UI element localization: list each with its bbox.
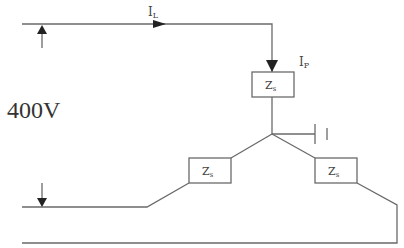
top-line-wire [22, 24, 272, 72]
phase-current-arrow-icon [266, 60, 278, 72]
star-connection-diagram: Zs Zs Zs IL IP 400V [0, 0, 404, 248]
voltage-arrow-down-icon [37, 198, 47, 207]
middle-line-wire [22, 183, 189, 207]
bottom-line-wire [22, 183, 397, 243]
left-branch-wire [231, 134, 272, 158]
right-branch-wire [272, 134, 315, 158]
voltage-arrow-up-icon [37, 25, 47, 34]
line-current-label: IL [148, 5, 159, 20]
line-current-arrow-icon [153, 20, 166, 28]
voltage-label: 400V [7, 97, 61, 123]
phase-current-label: IP [299, 55, 310, 70]
